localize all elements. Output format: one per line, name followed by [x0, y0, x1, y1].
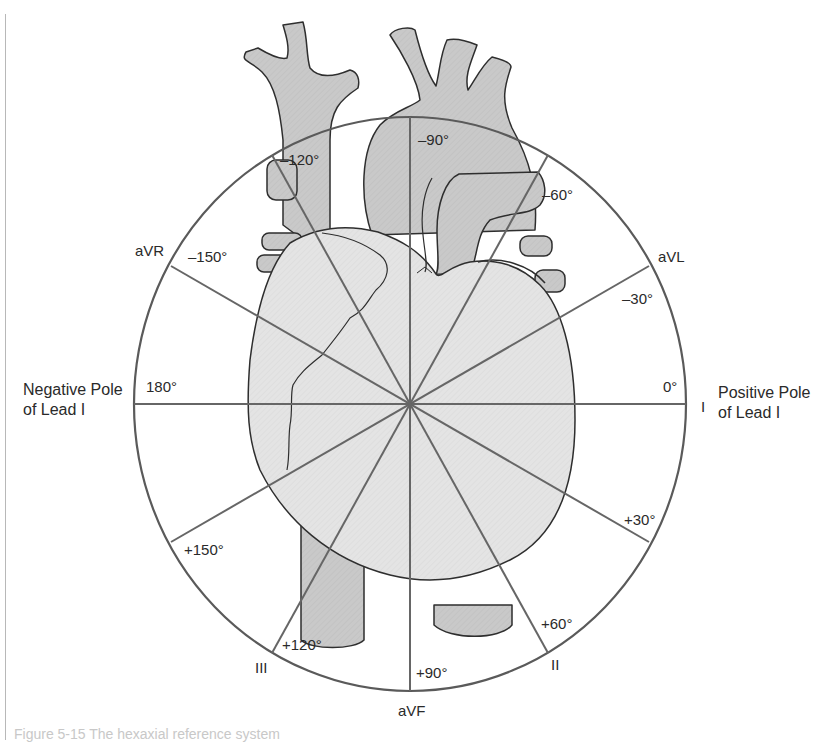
label-deg-m150: –150° — [188, 248, 227, 265]
label-lead-aVF: aVF — [398, 702, 426, 719]
label-lead-aVR: aVR — [135, 242, 164, 259]
descending-aorta — [434, 605, 512, 636]
negative-pole-line2: of Lead I — [23, 401, 85, 418]
label-deg-p60: +60° — [541, 615, 572, 632]
negative-pole-line1: Negative Pole — [23, 381, 123, 398]
label-deg-m30: –30° — [622, 290, 653, 307]
label-lead-III: III — [255, 659, 268, 676]
positive-pole-line2: of Lead I — [718, 404, 780, 421]
positive-pole-line1: Positive Pole — [718, 384, 811, 401]
label-deg-p150: +150° — [184, 541, 224, 558]
label-deg-180: 180° — [146, 378, 177, 395]
label-deg-p120: +120° — [282, 636, 322, 653]
label-deg-p90: +90° — [416, 664, 447, 681]
pulmonary-vein — [520, 236, 552, 256]
label-lead-I: I — [701, 398, 705, 415]
label-lead-aVL: aVL — [658, 248, 685, 265]
label-deg-m60: –60° — [542, 186, 573, 203]
label-deg-0: 0° — [663, 378, 677, 395]
label-deg-p30: +30° — [624, 511, 655, 528]
figure-caption: Figure 5-15 The hexaxial reference syste… — [14, 726, 280, 742]
label-deg-m120: –120° — [280, 151, 319, 168]
label-deg-m90: –90° — [418, 131, 449, 148]
label-lead-II: II — [551, 656, 559, 673]
axis-lines — [134, 117, 686, 691]
